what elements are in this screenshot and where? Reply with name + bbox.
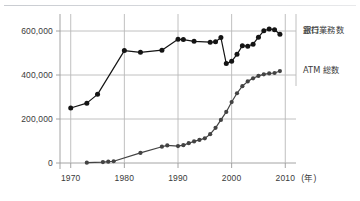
x-tick-label: 1980 <box>104 173 144 184</box>
y-tick-label: 400,000 <box>21 70 53 81</box>
x-tick-label: 1990 <box>158 173 198 184</box>
y-tick-label: 600,000 <box>21 26 53 37</box>
y-tick-label: 200,000 <box>21 114 53 125</box>
legend-atm-line1: ATM 総数 <box>303 65 340 75</box>
x-axis-unit-label: (年) <box>301 173 331 184</box>
legend-bank-line2: 窓口業務数 <box>303 25 344 35</box>
series-bank-teller <box>68 27 282 111</box>
x-tick-label: 2010 <box>265 173 305 184</box>
chart-figure: 0200,000400,000600,000 19701980199020002… <box>0 0 360 201</box>
series-atm-total <box>85 69 282 165</box>
x-tick-label: 2000 <box>212 173 252 184</box>
x-tick-label: 1970 <box>51 173 91 184</box>
y-tick-label: 0 <box>48 158 53 169</box>
